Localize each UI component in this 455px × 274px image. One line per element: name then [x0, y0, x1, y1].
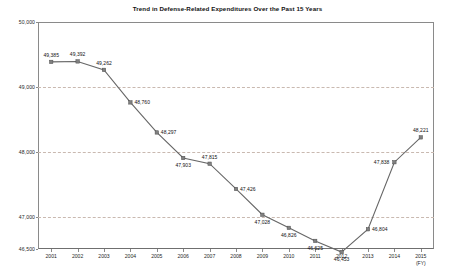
x-axis-tick-mark: [421, 249, 422, 252]
data-point-marker: [155, 131, 158, 134]
y-axis-tick-label: 47,000: [19, 214, 35, 220]
data-point-label: 49,262: [96, 60, 112, 66]
data-point-marker: [182, 156, 185, 159]
data-point-marker: [261, 213, 264, 216]
x-axis-tick-mark: [183, 249, 184, 252]
data-point-marker: [287, 226, 290, 229]
data-point-label: 46,804: [372, 226, 388, 232]
data-point-marker: [393, 161, 396, 164]
data-point-label: 48,221: [413, 127, 429, 133]
x-axis-tick-mark: [210, 249, 211, 252]
x-axis-tick-label: 2006: [178, 253, 189, 259]
x-axis-tick-mark: [130, 249, 131, 252]
fiscal-year-axis-label: (FY): [416, 260, 426, 266]
plot-area: 50,00049,00048,00047,00046,500 200120022…: [38, 22, 434, 249]
data-point-label: 48,297: [161, 129, 177, 135]
y-axis-tick-label: 49,000: [19, 84, 35, 90]
data-point-label: 47,426: [240, 186, 256, 192]
x-axis-tick-label: 2010: [283, 253, 294, 259]
x-axis-tick-label: 2008: [230, 253, 241, 259]
y-axis-tick-label: 48,000: [19, 149, 35, 155]
x-axis-tick-label: 2015: [415, 253, 426, 259]
data-point-label: 47,903: [175, 162, 191, 168]
series-line: [38, 22, 434, 249]
data-point-label: 49,385: [43, 52, 59, 58]
x-axis-tick-mark: [262, 249, 263, 252]
x-axis-tick-label: 2005: [151, 253, 162, 259]
x-axis-tick-mark: [368, 249, 369, 252]
data-point-marker: [314, 239, 317, 242]
x-axis-tick-label: 2011: [310, 253, 321, 259]
data-point-label: 46,453: [334, 256, 350, 262]
x-axis-tick-mark: [236, 249, 237, 252]
data-point-marker: [366, 228, 369, 231]
data-point-label: 48,760: [134, 99, 150, 105]
defense-expenditures-chart: Trend in Defense-Related Expenditures Ov…: [0, 0, 455, 274]
x-axis-tick-mark: [51, 249, 52, 252]
y-axis-tick-label: 46,500: [19, 246, 35, 252]
data-point-marker: [340, 250, 343, 253]
x-axis-tick-mark: [157, 249, 158, 252]
chart-title: Trend in Defense-Related Expenditures Ov…: [0, 5, 455, 12]
data-point-label: 46,826: [281, 232, 297, 238]
y-axis-tick-mark: [36, 249, 39, 250]
x-axis-tick-label: 2009: [257, 253, 268, 259]
data-point-marker: [419, 136, 422, 139]
x-axis-tick-label: 2001: [46, 253, 57, 259]
x-axis-tick-label: 2007: [204, 253, 215, 259]
x-axis-tick-label: 2013: [362, 253, 373, 259]
data-point-marker: [50, 60, 53, 63]
x-axis-tick-label: 2003: [98, 253, 109, 259]
x-axis-tick-label: 2002: [72, 253, 83, 259]
data-point-marker: [234, 187, 237, 190]
data-point-label: 49,392: [70, 51, 86, 57]
series-polyline: [51, 61, 421, 252]
x-axis-tick-mark: [78, 249, 79, 252]
data-point-label: 47,028: [255, 219, 271, 225]
x-axis-tick-label: 2004: [125, 253, 136, 259]
x-axis-tick-mark: [104, 249, 105, 252]
data-point-marker: [129, 101, 132, 104]
data-point-marker: [102, 68, 105, 71]
y-axis-tick-label: 50,000: [19, 19, 35, 25]
data-point-label: 47,815: [202, 154, 218, 160]
data-point-marker: [208, 162, 211, 165]
x-axis-tick-mark: [289, 249, 290, 252]
data-point-marker: [76, 60, 79, 63]
data-point-label: 47,838: [374, 159, 390, 165]
x-axis-tick-mark: [394, 249, 395, 252]
x-axis-tick-label: 2014: [389, 253, 400, 259]
data-point-label: 46,625: [307, 245, 323, 251]
